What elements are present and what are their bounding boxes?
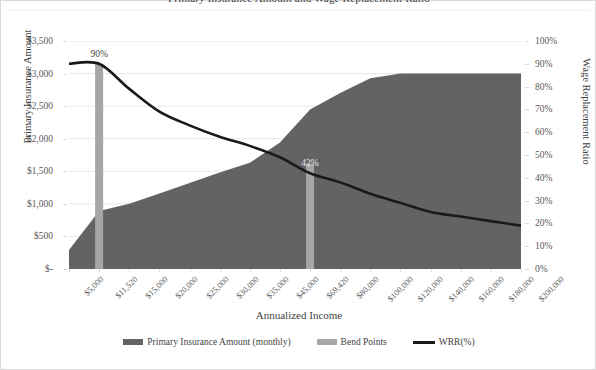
y-axis-right-title: Wage Replacement Ratio bbox=[581, 12, 592, 212]
legend-label: WRR(%) bbox=[439, 337, 475, 347]
y-axis-right-tickmark bbox=[525, 87, 529, 88]
y-axis-right-tick: 50% bbox=[535, 150, 552, 160]
x-axis-tick: $100,000 bbox=[386, 274, 416, 304]
y-axis-left-tick: $1,000 bbox=[27, 199, 53, 209]
y-axis-left-tickmark bbox=[63, 74, 67, 75]
x-axis-tickmark bbox=[431, 269, 432, 272]
x-axis-tickmark bbox=[310, 269, 311, 272]
y-axis-right-tick: 90% bbox=[535, 59, 552, 69]
x-axis-tick: $5,000 bbox=[82, 274, 106, 298]
y-axis-right-tickmark bbox=[525, 64, 529, 65]
x-axis-tickmark bbox=[461, 269, 462, 272]
x-axis-tick: $15,000 bbox=[143, 274, 170, 301]
title-divider bbox=[9, 10, 589, 11]
y-axis-right-tick: 80% bbox=[535, 82, 552, 92]
x-axis-tickmark bbox=[190, 269, 191, 272]
y-axis-right-tickmark bbox=[525, 41, 529, 42]
x-axis-tickmark bbox=[280, 269, 281, 272]
x-axis-tickmark bbox=[129, 269, 130, 272]
x-axis-tickmark bbox=[521, 269, 522, 272]
x-axis-tick: $45,000 bbox=[294, 274, 321, 301]
x-axis-ticks: $5,000$11,520$15,000$20,000$25,000$30,00… bbox=[69, 271, 521, 311]
y-axis-right-tick: 70% bbox=[535, 104, 552, 114]
x-axis-tickmark bbox=[69, 269, 70, 272]
x-axis-tick: $30,000 bbox=[234, 274, 261, 301]
y-axis-right-tick: 30% bbox=[535, 196, 552, 206]
chart-container: Primary Insurance Amount and Wage Replac… bbox=[0, 0, 596, 370]
legend-item[interactable]: WRR(%) bbox=[413, 337, 475, 347]
legend-swatch-icon bbox=[413, 341, 435, 344]
bar-bend-point bbox=[95, 64, 103, 269]
annotation-90: 90% bbox=[90, 49, 107, 59]
legend-item[interactable]: Primary Insurance Amount (monthly) bbox=[123, 337, 290, 347]
x-axis-tickmark bbox=[99, 269, 100, 272]
x-axis-tick: $20,000 bbox=[173, 274, 200, 301]
x-axis-tick: $80,000 bbox=[354, 274, 381, 301]
legend-label: Bend Points bbox=[341, 337, 387, 347]
y-axis-right-tickmark bbox=[525, 155, 529, 156]
y-axis-left-tickmark bbox=[63, 106, 67, 107]
plot-svg bbox=[69, 41, 521, 269]
y-axis-right-tickmark bbox=[525, 201, 529, 202]
x-axis-tick: $35,000 bbox=[264, 274, 291, 301]
y-axis-right-tickmark bbox=[525, 109, 529, 110]
y-axis-left-tickmark bbox=[63, 204, 67, 205]
x-axis-title: Annualized Income bbox=[1, 309, 596, 321]
plot-area bbox=[69, 41, 521, 269]
x-axis-tick: $160,000 bbox=[476, 274, 506, 304]
y-axis-left-tick: $500 bbox=[34, 231, 53, 241]
y-axis-right-tickmark bbox=[525, 269, 529, 270]
x-axis-tickmark bbox=[220, 269, 221, 272]
legend-swatch-icon bbox=[317, 339, 337, 345]
y-axis-left-tickmark bbox=[63, 139, 67, 140]
legend-label: Primary Insurance Amount (monthly) bbox=[147, 337, 290, 347]
x-axis-tickmark bbox=[250, 269, 251, 272]
legend-item[interactable]: Bend Points bbox=[317, 337, 387, 347]
y-axis-right-tickmark bbox=[525, 132, 529, 133]
y-axis-left-title: Primary Insurance Amount bbox=[22, 0, 33, 187]
y-axis-right-tickmark bbox=[525, 246, 529, 247]
x-axis-tick: $25,000 bbox=[204, 274, 231, 301]
x-axis-tickmark bbox=[491, 269, 492, 272]
y-axis-right-tick: 40% bbox=[535, 173, 552, 183]
y-axis-left-tick: $- bbox=[45, 264, 53, 274]
y-axis-right-tick: 100% bbox=[535, 36, 557, 46]
x-axis-tick: $69,420 bbox=[324, 274, 351, 301]
y-axis-left-tickmark bbox=[63, 41, 67, 42]
y-axis-right-tick: 0% bbox=[535, 264, 548, 274]
chart-legend: Primary Insurance Amount (monthly)Bend P… bbox=[1, 337, 596, 347]
x-axis-tick: $120,000 bbox=[416, 274, 446, 304]
x-axis-tickmark bbox=[370, 269, 371, 272]
x-axis-tickmark bbox=[340, 269, 341, 272]
y-axis-right-tickmark bbox=[525, 178, 529, 179]
y-axis-right-tick: 10% bbox=[535, 241, 552, 251]
y-axis-right-tickmark bbox=[525, 223, 529, 224]
y-axis-right-tick: 60% bbox=[535, 127, 552, 137]
y-axis-left-tickmark bbox=[63, 171, 67, 172]
y-axis-left-tickmark bbox=[63, 236, 67, 237]
y-axis-left-tickmark bbox=[63, 269, 67, 270]
x-axis-tickmark bbox=[159, 269, 160, 272]
x-axis-tickmark bbox=[400, 269, 401, 272]
annotation-42: 42% bbox=[301, 158, 318, 168]
x-axis-tick: $11,520 bbox=[113, 274, 139, 300]
bar-bend-point bbox=[306, 163, 314, 269]
x-axis-tick: $140,000 bbox=[446, 274, 476, 304]
chart-title: Primary Insurance Amount and Wage Replac… bbox=[1, 0, 596, 6]
y-axis-right-tick: 20% bbox=[535, 218, 552, 228]
legend-swatch-icon bbox=[123, 339, 143, 345]
